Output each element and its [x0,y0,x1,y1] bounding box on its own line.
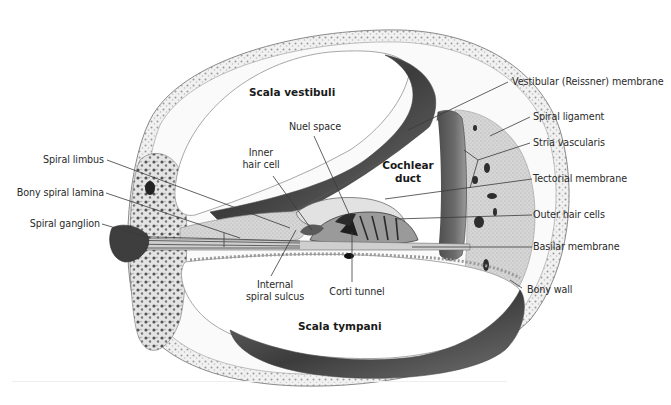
spiral-vessel [344,253,354,259]
label-internal-spiral-sulcus-line1: Internal [240,279,310,291]
label-internal-spiral-sulcus-line2: spiral sulcus [240,291,310,303]
label-nuel-space: Nuel space [280,121,350,133]
label-basilar-membrane: Basilar membrane [533,241,620,253]
label-tectorial-membrane: Tectorial membrane [533,173,627,185]
bottom-divider [12,381,507,382]
label-inner-hair-cell-line2: hair cell [236,159,286,171]
scala-vestibuli-label: Scala vestibuli [249,86,335,99]
label-spiral-ligament: Spiral ligament [533,111,604,123]
label-bony-spiral-lamina: Bony spiral lamina [0,187,104,199]
label-outer-hair-cells: Outer hair cells [533,209,605,221]
label-stria-vascularis: Stria vascularis [533,137,605,149]
cochlear-duct-label-line1: Cochlear [378,159,438,172]
label-bony-wall: Bony wall [527,284,572,296]
scala-tympani-label: Scala tympani [298,320,382,333]
label-spiral-ganglion: Spiral ganglion [0,218,100,230]
ganglion-vessel [145,181,155,195]
label-inner-hair-cell-line1: Inner [236,147,286,159]
cochlear-duct-label-line2: duct [378,172,438,185]
label-vestibular-membrane: Vestibular (Reissner) membrane [512,76,664,88]
label-spiral-limbus: Spiral limbus [0,154,104,166]
label-corti-tunnel: Corti tunnel [322,286,392,298]
cochlea-illustration [0,0,671,405]
cochlea-diagram: Scala vestibuli Cochlear duct Scala tymp… [0,0,671,405]
